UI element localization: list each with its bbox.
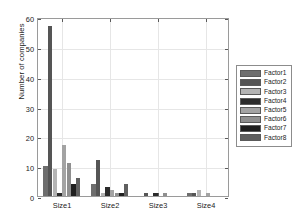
plot-area: 0102030405060Size1Size2Size3Size4 bbox=[37, 18, 229, 197]
y-tick-mark bbox=[38, 49, 41, 50]
legend-item-factor6[interactable]: Factor6 bbox=[240, 115, 288, 124]
y-tick-mark bbox=[38, 138, 41, 139]
gridline-horizontal bbox=[38, 79, 228, 80]
gridline-vertical bbox=[206, 19, 207, 196]
legend-item-label: Factor6 bbox=[264, 116, 286, 123]
y-tick-label: 50 bbox=[26, 44, 34, 53]
y-tick-mark bbox=[38, 19, 41, 20]
legend-item-label: Factor3 bbox=[264, 89, 286, 96]
bar-size3-factor2 bbox=[144, 193, 148, 196]
chart-figure: Number of companies 0102030405060Size1Si… bbox=[0, 0, 297, 224]
y-tick-mark bbox=[38, 109, 41, 110]
legend-item-label: Factor5 bbox=[264, 107, 286, 114]
y-tick-mark bbox=[225, 79, 228, 80]
x-tick-label: Size1 bbox=[53, 201, 72, 210]
x-tick-label: Size4 bbox=[197, 201, 216, 210]
legend-item-factor8[interactable]: Factor8 bbox=[240, 133, 288, 142]
legend-swatch-icon bbox=[240, 70, 261, 77]
bar-size1-factor3 bbox=[53, 169, 57, 196]
y-tick-mark bbox=[38, 168, 41, 169]
y-tick-label: 10 bbox=[26, 164, 34, 173]
legend-swatch-icon bbox=[240, 88, 261, 95]
x-tick-mark bbox=[158, 19, 159, 22]
y-tick-mark bbox=[225, 168, 228, 169]
y-axis-label: Number of companies bbox=[17, 0, 26, 127]
x-tick-mark bbox=[206, 19, 207, 22]
gridline-horizontal bbox=[38, 138, 228, 139]
y-tick-label: 0 bbox=[30, 194, 34, 203]
y-tick-label: 40 bbox=[26, 74, 34, 83]
legend-swatch-icon bbox=[240, 98, 261, 105]
bar-size3-factor6 bbox=[163, 193, 167, 196]
y-tick-mark bbox=[225, 109, 228, 110]
legend-item-factor1[interactable]: Factor1 bbox=[240, 69, 288, 78]
y-tick-label: 60 bbox=[26, 15, 34, 24]
legend-item-factor7[interactable]: Factor7 bbox=[240, 124, 288, 133]
chart-legend: Factor1Factor2Factor3Factor4Factor5Facto… bbox=[236, 65, 292, 147]
legend-item-factor3[interactable]: Factor3 bbox=[240, 87, 288, 96]
x-tick-mark bbox=[110, 19, 111, 22]
legend-item-factor5[interactable]: Factor5 bbox=[240, 106, 288, 115]
x-tick-mark bbox=[62, 19, 63, 22]
legend-swatch-icon bbox=[240, 125, 261, 132]
legend-swatch-icon bbox=[240, 134, 261, 141]
legend-item-label: Factor1 bbox=[264, 70, 286, 77]
y-tick-mark bbox=[225, 138, 228, 139]
legend-swatch-icon bbox=[240, 107, 261, 114]
legend-swatch-icon bbox=[240, 116, 261, 123]
legend-item-label: Factor8 bbox=[264, 135, 286, 142]
y-tick-label: 30 bbox=[26, 104, 34, 113]
y-tick-mark bbox=[225, 19, 228, 20]
legend-item-label: Factor2 bbox=[264, 79, 286, 86]
bar-size2-factor2 bbox=[96, 160, 100, 196]
gridline-horizontal bbox=[38, 49, 228, 50]
y-tick-mark bbox=[38, 198, 41, 199]
x-tick-mark bbox=[158, 193, 159, 196]
legend-swatch-icon bbox=[240, 79, 261, 86]
bar-size4-factor5 bbox=[206, 193, 210, 196]
legend-item-label: Factor7 bbox=[264, 125, 286, 132]
bar-size3-factor4 bbox=[153, 193, 157, 196]
plot-inner bbox=[38, 19, 228, 196]
legend-item-factor2[interactable]: Factor2 bbox=[240, 78, 288, 87]
y-tick-mark bbox=[38, 79, 41, 80]
x-tick-label: Size2 bbox=[101, 201, 120, 210]
legend-item-label: Factor4 bbox=[264, 98, 286, 105]
gridline-vertical bbox=[158, 19, 159, 196]
x-tick-label: Size3 bbox=[149, 201, 168, 210]
gridline-vertical bbox=[110, 19, 111, 196]
y-tick-label: 20 bbox=[26, 134, 34, 143]
legend-item-factor4[interactable]: Factor4 bbox=[240, 97, 288, 106]
y-tick-mark bbox=[225, 198, 228, 199]
bar-size2-factor8 bbox=[124, 184, 128, 196]
gridline-horizontal bbox=[38, 109, 228, 110]
bar-size4-factor3 bbox=[197, 190, 201, 196]
y-tick-mark bbox=[225, 49, 228, 50]
bar-size1-factor8 bbox=[76, 178, 80, 196]
